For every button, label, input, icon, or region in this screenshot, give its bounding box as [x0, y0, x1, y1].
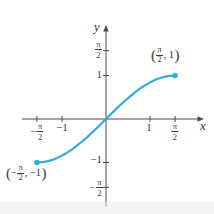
pi-over-2-fraction: π2 — [36, 122, 43, 142]
y-tick-label-pi-over-2: π2 — [95, 40, 102, 60]
pi-over-2-fraction: π2 — [156, 46, 163, 65]
pi-over-2-fraction: π2 — [96, 178, 103, 198]
endpoint-annotation-bottom-left: (−π2, −1) — [6, 164, 47, 183]
x-tick-label-neg-1: −1 — [56, 122, 68, 133]
annotation-suffix: , −1 — [24, 168, 41, 179]
fraction-numerator: π — [171, 122, 178, 132]
pi-over-2-fraction: π2 — [171, 122, 178, 142]
y-tick-label-neg-pi-over-2: −π2 — [90, 178, 103, 198]
sine-graph-figure: y x π2 1 −1 −π2 −π2 −1 1 π2 (π2, 1) (−π2… — [0, 0, 214, 214]
fraction-denominator: 2 — [96, 50, 100, 59]
y-tick-label-neg-1: −1 — [90, 154, 102, 165]
x-tick-label-neg-pi-over-2: −π2 — [30, 122, 43, 142]
page-background-band — [0, 202, 214, 214]
fraction-denominator: 2 — [97, 188, 101, 197]
y-axis-label: y — [94, 21, 100, 34]
close-paren: ) — [175, 48, 180, 63]
fraction-numerator: π — [96, 178, 103, 188]
y-tick-label-1: 1 — [97, 69, 103, 80]
fraction-denominator: 2 — [173, 132, 177, 141]
close-paren: ) — [42, 166, 47, 181]
x-axis-label: x — [200, 120, 206, 133]
endpoint-dot — [172, 73, 177, 78]
fraction-numerator: π — [36, 122, 43, 132]
pi-over-2-fraction: π2 — [17, 164, 24, 183]
annotation-suffix: , 1 — [163, 50, 175, 61]
pi-over-2-fraction: π2 — [95, 40, 102, 60]
x-tick-label-pi-over-2: π2 — [171, 122, 178, 142]
fraction-numerator: π — [95, 40, 102, 50]
fraction-denominator: 2 — [158, 56, 162, 65]
fraction-denominator: 2 — [38, 132, 42, 141]
fraction-denominator: 2 — [19, 174, 23, 183]
x-tick-label-1: 1 — [146, 122, 152, 133]
y-axis-arrow-icon — [103, 25, 108, 32]
endpoint-annotation-top-right: (π2, 1) — [151, 46, 180, 65]
